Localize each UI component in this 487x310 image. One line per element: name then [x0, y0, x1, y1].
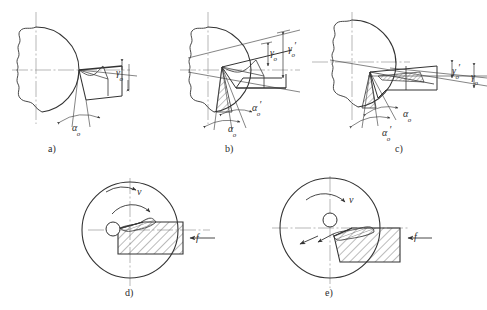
- panel-c-tool: [362, 66, 487, 108]
- panel-a-alpha-dimension: [60, 70, 100, 127]
- label-v-panel-e: v: [349, 194, 353, 205]
- panel-d-rotation-arrows: [106, 187, 150, 214]
- caption-panel-d: d): [125, 287, 133, 298]
- panel-e-rotation-arrow: [306, 194, 345, 202]
- label-gamma-o-prime-panel-c: γo′: [452, 66, 462, 79]
- label-f-panel-d: f: [196, 232, 199, 243]
- panel-e-spindle: [323, 213, 337, 227]
- label-alpha-o-prime-panel-c: αo′: [382, 128, 393, 141]
- panel-d-spindle: [106, 222, 120, 236]
- label-alpha-o-prime-panel-b: αo′: [252, 103, 263, 116]
- label-alpha-o-panel-b: αo: [228, 124, 237, 137]
- panel-b: [180, 12, 300, 130]
- panel-e: [272, 176, 432, 288]
- panel-b-centerlines: [180, 12, 300, 124]
- label-gamma-o-panel-c: γo: [471, 72, 478, 85]
- panel-a-centerlines: [12, 12, 130, 124]
- caption-panel-a: a): [48, 143, 56, 154]
- caption-panel-c: c): [395, 143, 403, 154]
- caption-panel-e: e): [325, 287, 333, 298]
- panel-a-workpiece: [17, 27, 79, 112]
- panel-c-centerlines: [312, 12, 410, 120]
- label-alpha-o-panel-c: αo: [403, 109, 412, 122]
- label-v-panel-d: v: [137, 186, 141, 197]
- technical-figure: γo αo a) γo γo′ αo′ αo b) γo′ γo αo αo′ …: [0, 0, 487, 310]
- label-f-panel-e: f: [414, 231, 417, 242]
- label-alpha-o-panel-a: αo: [72, 123, 81, 136]
- caption-panel-b: b): [225, 143, 233, 154]
- label-gamma-o-prime-panel-b: γo′: [288, 44, 298, 57]
- figure-canvas: [0, 0, 487, 310]
- label-gamma-o-panel-a: γo: [116, 68, 123, 81]
- panel-c-workpiece: [332, 20, 396, 107]
- label-gamma-o-panel-b: γo: [270, 48, 277, 61]
